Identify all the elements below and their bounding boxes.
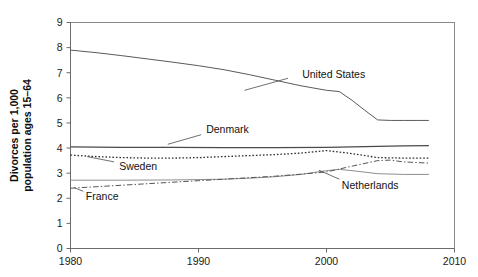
y-tick-label: 3 (57, 167, 63, 179)
series-label-france: France (86, 190, 119, 202)
y-tick-label: 6 (57, 92, 63, 104)
leader-line-france (74, 188, 83, 192)
y-tick-label: 1 (57, 217, 63, 229)
leader-line-denmark (168, 135, 201, 145)
series-line-sweden (71, 151, 429, 159)
chart-canvas: 0123456789 1980199020002010 United State… (0, 0, 478, 277)
series-label-denmark: Denmark (206, 123, 249, 135)
y-tick-label: 9 (57, 16, 63, 28)
x-tick-label: 2000 (315, 255, 339, 267)
series-label-sweden: Sweden (119, 160, 157, 172)
y-tick-label: 4 (57, 142, 63, 154)
leader-line-united-states (245, 78, 289, 90)
y-axis-title: Divorces per 1,000 population ages 15–64 (8, 79, 33, 192)
x-tick-label: 1980 (59, 255, 83, 267)
y-tick-label: 7 (57, 67, 63, 79)
y-tick-label: 5 (57, 117, 63, 129)
series-labels: United StatesDenmarkSwedenNetherlandsFra… (86, 68, 399, 202)
x-tick-label: 1990 (187, 255, 211, 267)
y-tick-label: 0 (57, 242, 63, 254)
y-tick-label: 2 (57, 192, 63, 204)
y-axis-ticks: 0123456789 (57, 16, 71, 254)
series-label-netherlands: Netherlands (342, 179, 399, 191)
leader-line-netherlands (319, 170, 339, 179)
series-line-united-states (71, 50, 429, 120)
y-axis-title-line2: population ages 15–64 (21, 79, 33, 192)
series-line-denmark (71, 146, 429, 148)
x-axis-ticks: 1980199020002010 (59, 249, 467, 267)
line-chart-figure: 0123456789 1980199020002010 United State… (0, 0, 478, 277)
x-tick-label: 2010 (443, 255, 467, 267)
y-tick-label: 8 (57, 41, 63, 53)
y-axis-title-line1: Divorces per 1,000 (8, 89, 20, 182)
series-label-united-states: United States (302, 68, 365, 80)
